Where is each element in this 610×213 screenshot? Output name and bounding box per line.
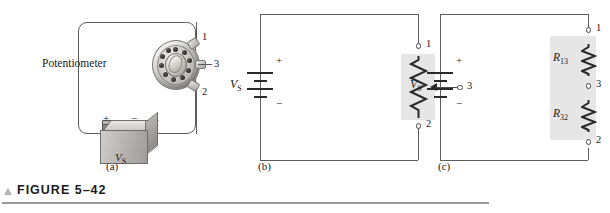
potentiometer-hole [171, 77, 176, 82]
battery-plate-long [247, 72, 273, 74]
terminal-number-3-a: 3 [214, 58, 219, 69]
battery-minus-sign-b: − [276, 97, 282, 109]
battery-plus-sign-c: + [456, 54, 462, 66]
battery-plate-short [434, 96, 447, 98]
panel-label-c: (c) [438, 160, 450, 172]
source-label-b: VS [230, 77, 242, 93]
potentiometer-hole [186, 68, 191, 73]
potentiometer-component [148, 36, 202, 92]
figure-illustration: Potentiometer 1 3 [0, 0, 610, 180]
panel-c-schematic: + − VS R13 R32 1 3 2 (c) [420, 0, 610, 180]
resistor-symbol-r13 [581, 44, 597, 76]
battery-plate-long [427, 72, 453, 74]
wire-left-c [440, 14, 441, 160]
resistor-symbol-r32 [581, 100, 597, 132]
battery-plate-long [247, 88, 273, 90]
wire-bottom-b [260, 160, 418, 161]
panel-label-b: (b) [258, 160, 271, 172]
terminal-number-2-c: 2 [596, 134, 601, 145]
wire-right-bottom-c [588, 148, 589, 160]
terminal-number-2-a: 2 [202, 86, 207, 97]
source-label-c: VS [410, 77, 422, 93]
battery-front-face: VS [100, 130, 148, 164]
caption-divider [2, 202, 489, 204]
triangle-up-icon [4, 188, 12, 195]
lead-terminal-2-to-bottom [196, 88, 197, 134]
terminal-number-1-c: 1 [596, 22, 601, 33]
battery-plate-short [254, 96, 267, 98]
terminal-node-3-c [586, 83, 592, 89]
terminal-number-3-c: 3 [596, 78, 601, 89]
terminal-node-1-c [586, 27, 592, 33]
potentiometer-label: Potentiometer [42, 57, 107, 69]
wire-bottom-c [440, 160, 588, 161]
battery-plus-sign-b: + [276, 54, 282, 66]
potentiometer-hole [173, 47, 178, 52]
wire-right-lower-b [418, 126, 419, 160]
panel-b-schematic: + − VS 3 1 2 (b) [230, 0, 420, 180]
resistor-label-r13: R13 [553, 51, 568, 66]
resistor-label-r32: R32 [553, 107, 568, 122]
potentiometer-hole [166, 48, 171, 53]
potentiometer-hole [187, 58, 192, 63]
battery-plate-short [254, 80, 267, 82]
battery-plate-long [427, 88, 453, 90]
wire-right-upper-b [418, 14, 419, 46]
wire-left-b [260, 14, 261, 160]
potentiometer-hole [159, 63, 164, 68]
terminal-node-2-c [586, 139, 592, 145]
battery-block-a: VS [98, 118, 162, 166]
wire-top-c [440, 14, 588, 15]
terminal-number-1-a: 1 [202, 31, 207, 42]
panel-a-pictorial: Potentiometer 1 3 [0, 0, 230, 180]
potentiometer-hole [160, 54, 165, 59]
battery-plate-short [434, 80, 447, 82]
figure-caption: FIGURE 5–42 [17, 183, 107, 197]
potentiometer-lug-2 [186, 79, 200, 92]
battery-minus-sign-c: − [456, 97, 462, 109]
lead-terminal-3 [198, 64, 212, 65]
panel-label-a: (a) [106, 160, 118, 172]
potentiometer-hole [182, 50, 187, 55]
wire-top-b [260, 14, 418, 15]
